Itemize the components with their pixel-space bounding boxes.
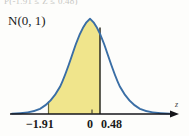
tick-label-zero: 0 <box>87 117 93 132</box>
z-axis-arrowhead <box>170 110 179 117</box>
distribution-label: N(0, 1) <box>8 13 46 29</box>
z-axis-label: z <box>175 100 178 109</box>
tick-label-upper-bound: 0.48 <box>101 117 122 132</box>
shaded-area-under-curve <box>12 19 170 114</box>
tick-label-lower-bound: −1.91 <box>26 117 54 132</box>
shaded-area-group <box>12 19 170 114</box>
